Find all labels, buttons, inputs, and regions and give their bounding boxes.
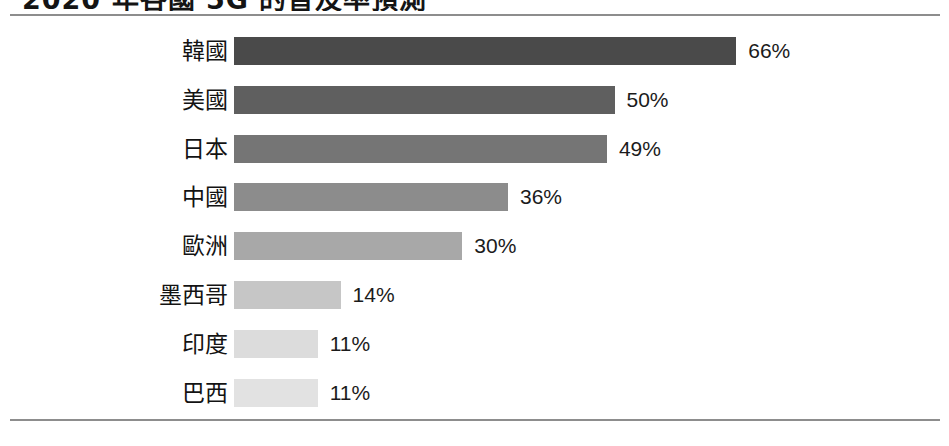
bar-category-label: 墨西哥 [0, 281, 228, 309]
bar-row: 美國50% [0, 86, 949, 114]
bar-value-label: 14% [353, 281, 395, 309]
chart-title-clip: 2020 年各國 5G 的普及率預測 [0, 0, 949, 11]
bar-value-label: 11% [330, 330, 370, 358]
bar [234, 281, 341, 309]
bar-row: 墨西哥14% [0, 281, 949, 309]
bar-row: 日本49% [0, 135, 949, 163]
bar [234, 183, 508, 211]
top-divider-rule [10, 14, 940, 16]
bar-row: 韓國66% [0, 37, 949, 65]
bar-category-label: 巴西 [0, 379, 228, 407]
plot-area: 韓國66%美國50%日本49%中國36%歐洲30%墨西哥14%印度11%巴西11… [0, 22, 949, 414]
bar-row: 巴西11% [0, 379, 949, 407]
bar-row: 歐洲30% [0, 232, 949, 260]
bar-category-label: 日本 [0, 135, 228, 163]
bar [234, 330, 318, 358]
bar-category-label: 韓國 [0, 37, 228, 65]
bar-category-label: 歐洲 [0, 232, 228, 260]
bar-category-label: 中國 [0, 183, 228, 211]
bar [234, 86, 615, 114]
bar-row: 印度11% [0, 330, 949, 358]
bar-row: 中國36% [0, 183, 949, 211]
bar-value-label: 66% [748, 37, 790, 65]
bar [234, 232, 462, 260]
bar [234, 135, 607, 163]
bottom-divider-rule [10, 419, 940, 421]
bar [234, 379, 318, 407]
bar-category-label: 印度 [0, 330, 228, 358]
bar-value-label: 11% [330, 379, 370, 407]
bar-value-label: 36% [520, 183, 562, 211]
bar-chart-figure: 2020 年各國 5G 的普及率預測 韓國66%美國50%日本49%中國36%歐… [0, 0, 949, 446]
bar-value-label: 50% [627, 86, 669, 114]
bar [234, 37, 736, 65]
page-title: 2020 年各國 5G 的普及率預測 [22, 0, 427, 11]
bar-category-label: 美國 [0, 86, 228, 114]
bar-value-label: 49% [619, 135, 661, 163]
bar-value-label: 30% [474, 232, 516, 260]
